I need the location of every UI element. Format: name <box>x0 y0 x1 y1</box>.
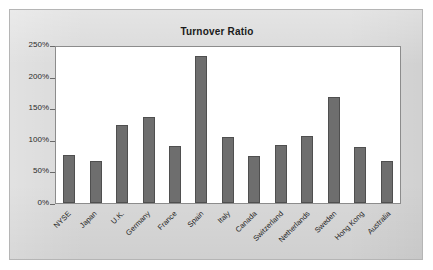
x-axis-tick-label: Italy <box>216 209 232 225</box>
bar <box>143 117 155 203</box>
x-axis-tick-label: Spain <box>186 209 206 229</box>
bar <box>301 136 313 203</box>
y-axis-tick-label: 100% <box>29 135 49 144</box>
y-axis-tick-label: 200% <box>29 72 49 81</box>
x-axis-tick-label: Australia <box>365 209 392 236</box>
x-axis-tick-label: Canada <box>234 209 259 234</box>
x-axis-tick-label: Germany <box>124 209 152 237</box>
y-axis-tick-mark <box>50 78 55 79</box>
y-axis-tick-mark <box>50 109 55 110</box>
x-axis: NYSEJapanU.K.GermanyFranceSpainItalyCana… <box>55 205 401 261</box>
bar <box>63 155 75 203</box>
bar <box>116 125 128 203</box>
bar <box>169 146 181 204</box>
y-axis-tick-label: 50% <box>33 166 49 175</box>
bar <box>90 161 102 203</box>
chart-panel: Turnover Ratio 0%50%100%150%200%250% NYS… <box>9 9 423 260</box>
chart-title: Turnover Ratio <box>10 26 424 37</box>
bar <box>195 56 207 203</box>
bar <box>222 137 234 203</box>
bar <box>354 147 366 203</box>
chart-figure: Turnover Ratio 0%50%100%150%200%250% NYS… <box>0 0 433 270</box>
y-axis-tick-mark <box>50 141 55 142</box>
y-axis-tick-mark <box>50 172 55 173</box>
bar <box>275 145 287 203</box>
y-axis: 0%50%100%150%200%250% <box>10 46 55 204</box>
x-axis-tick-label: NYSE <box>52 209 73 230</box>
x-axis-tick-label: France <box>156 209 179 232</box>
bar-series <box>56 47 400 203</box>
y-axis-tick-label: 150% <box>29 103 49 112</box>
y-axis-tick-label: 0% <box>37 198 49 207</box>
bar <box>328 97 340 203</box>
x-axis-tick-label: Japan <box>78 209 99 230</box>
y-axis-tick-mark <box>50 46 55 47</box>
bar <box>381 161 393 203</box>
bar <box>248 156 260 203</box>
y-axis-tick-label: 250% <box>29 40 49 49</box>
plot-area <box>55 46 401 204</box>
x-axis-tick-label: U.K. <box>109 209 126 226</box>
x-axis-tick-label: Sweden <box>313 209 339 235</box>
